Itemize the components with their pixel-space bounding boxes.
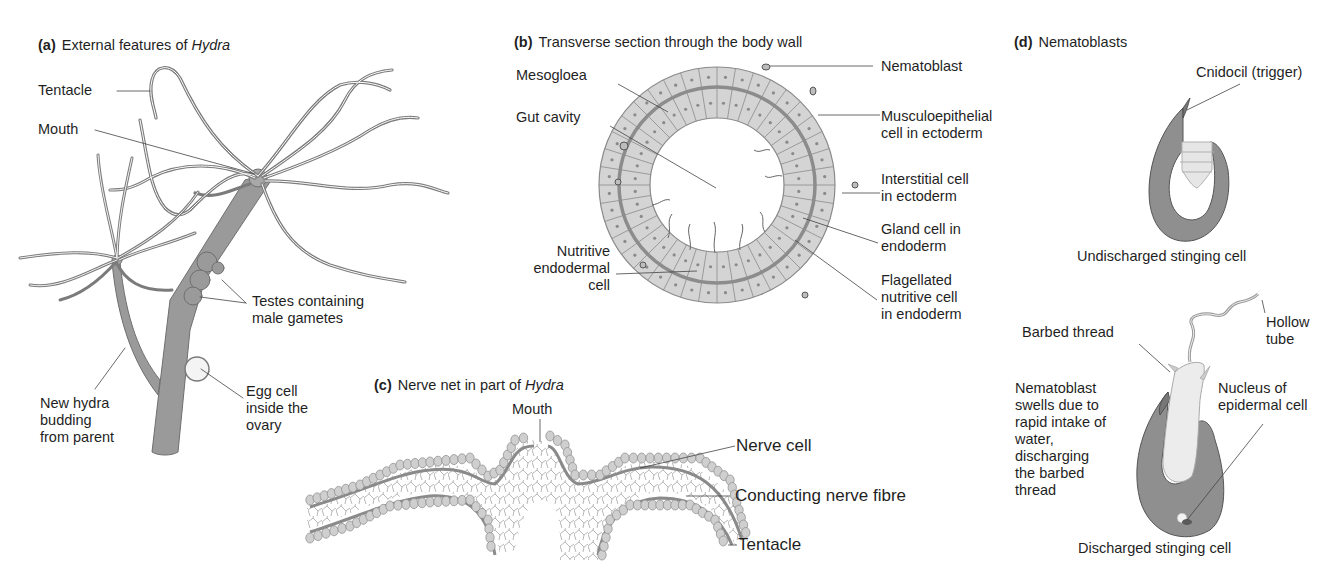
- panel-a-title-text: External features of: [62, 37, 192, 53]
- label-flagellated-cell: Flagellated nutritive cell in endoderm: [881, 272, 962, 323]
- hydra-diagram-artwork: [0, 0, 1344, 581]
- panel-c-title-italic: Hydra: [525, 377, 564, 393]
- label-cnidocil: Cnidocil (trigger): [1196, 64, 1302, 81]
- label-hollow-tube: Hollow tube: [1266, 314, 1310, 348]
- label-c-tentacle: Tentacle: [738, 535, 801, 555]
- label-nematoblast-swells: Nematoblast swells due to rapid intake o…: [1015, 380, 1106, 499]
- label-conducting-nerve-fibre: Conducting nerve fibre: [735, 486, 906, 506]
- panel-b-title-text: Transverse section through the body wall: [539, 34, 803, 50]
- label-barbed-thread: Barbed thread: [1022, 324, 1114, 341]
- bud-body: [112, 262, 160, 395]
- label-testes: Testes containing male gametes: [252, 293, 364, 327]
- label-discharged: Discharged stinging cell: [1078, 540, 1231, 557]
- label-new-hydra-bud: New hydra budding from parent: [40, 395, 114, 446]
- panel-d-title: (d)Nematoblasts: [1014, 34, 1127, 51]
- hollow-tube: [1189, 294, 1258, 362]
- label-nerve-cell: Nerve cell: [736, 436, 812, 456]
- label-mesogloea: Mesogloea: [516, 67, 587, 84]
- panel-b-letter: (b): [514, 34, 533, 50]
- panel-d-title-text: Nematoblasts: [1039, 34, 1128, 50]
- label-nucleus: Nucleus of epidermal cell: [1218, 380, 1307, 414]
- label-c-mouth: Mouth: [512, 401, 552, 418]
- label-nutritive-cell: Nutritive endodermal cell: [520, 243, 610, 294]
- label-nematoblast: Nematoblast: [881, 58, 962, 75]
- panel-c-title: (c)Nerve net in part of Hydra: [374, 377, 564, 394]
- panel-a-letter: (a): [38, 37, 56, 53]
- label-interstitial: Interstitial cell in ectoderm: [881, 171, 969, 205]
- panel-d-nematoblast-drawing: [1137, 84, 1265, 537]
- label-mouth: Mouth: [38, 121, 78, 138]
- panel-a-title: (a)External features of Hydra: [38, 37, 230, 54]
- panel-c-nerve-net-drawing: [306, 419, 750, 560]
- panel-d-letter: (d): [1014, 34, 1033, 50]
- panel-c-title-text: Nerve net in part of: [398, 377, 525, 393]
- coiled-thread: [1180, 142, 1214, 188]
- label-musculoepithelial: Musculoepithelial cell in ectoderm: [881, 108, 992, 142]
- label-gland-cell: Gland cell in endoderm: [881, 221, 961, 255]
- label-tentacle: Tentacle: [38, 82, 92, 99]
- egg-cell: [185, 357, 209, 381]
- label-undischarged: Undischarged stinging cell: [1077, 248, 1246, 265]
- panel-c-letter: (c): [374, 377, 392, 393]
- panel-a-title-italic: Hydra: [192, 37, 231, 53]
- label-gut-cavity: Gut cavity: [516, 109, 580, 126]
- panel-b-title: (b)Transverse section through the body w…: [514, 34, 802, 51]
- label-egg-cell: Egg cell inside the ovary: [246, 383, 308, 434]
- panel-b-ring-drawing: [599, 64, 880, 303]
